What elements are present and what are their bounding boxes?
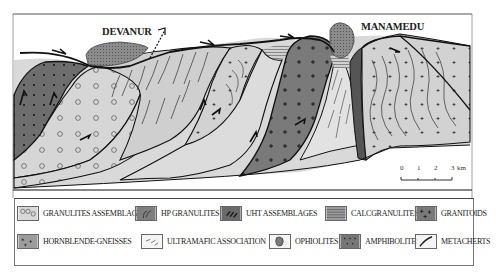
place-label-devanur: DEVANUR	[102, 26, 152, 37]
scale-bar: 0 1 2 3 km	[400, 168, 460, 188]
curve-line-pattern-icon	[415, 234, 437, 249]
curls-pattern-icon	[135, 206, 157, 221]
legend: GRANULITES ASSEMBLAGE HP GRANULITES UHT …	[14, 198, 474, 266]
scale-tick-2: 2	[434, 164, 438, 172]
horizontal-lines-pattern-icon	[325, 206, 347, 221]
legend-item-calcgranulites: CALCGRANULITES	[325, 205, 418, 221]
legend-item-ultramafic-association: ULTRAMAFIC ASSOCIATION	[141, 233, 266, 249]
legend-label: ULTRAMAFIC ASSOCIATION	[167, 237, 266, 246]
legend-item-uht-assemblages: UHT ASSEMBLAGES	[220, 205, 317, 221]
legend-item-granulites-assemblage: GRANULITES ASSEMBLAGE	[17, 205, 142, 221]
legend-item-ophiolites: OPHIOLITES	[269, 233, 338, 249]
light-dashes-pattern-icon	[141, 234, 163, 249]
legend-label: CALCGRANULITES	[351, 209, 418, 218]
legend-label: GRANITOIDS	[441, 209, 487, 218]
legend-item-metacherts: METACHERTS	[415, 233, 490, 249]
legend-label: GRANULITES ASSEMBLAGE	[43, 209, 142, 218]
light-crosses-pattern-icon	[17, 234, 39, 249]
legend-label: OPHIOLITES	[295, 237, 338, 246]
crosses-pattern-icon	[415, 206, 437, 221]
legend-item-amphibolites: AMPHIBOLITES	[339, 233, 420, 249]
scale-tick-0: 0	[400, 164, 404, 172]
legend-label: HORNBLENDE-GNEISSES	[43, 237, 132, 246]
scale-unit: km	[457, 164, 466, 172]
blob-pattern-icon	[269, 234, 291, 249]
legend-label: UHT ASSEMBLAGES	[246, 209, 317, 218]
dashes-pattern-icon	[220, 206, 242, 221]
place-label-manamedu: MANAMEDU	[361, 21, 424, 32]
legend-item-hornblende-gneisses: HORNBLENDE-GNEISSES	[17, 233, 132, 249]
scale-tick-3: 3	[451, 164, 455, 172]
legend-item-granitoids: GRANITOIDS	[415, 205, 487, 221]
legend-item-hp-granulites: HP GRANULITES	[135, 205, 219, 221]
legend-label: METACHERTS	[441, 237, 490, 246]
legend-label: AMPHIBOLITES	[365, 237, 420, 246]
dots-pattern-icon	[339, 234, 361, 249]
scale-tick-1: 1	[417, 164, 421, 172]
legend-label: HP GRANULITES	[161, 209, 219, 218]
circles-pattern-icon	[17, 206, 39, 221]
